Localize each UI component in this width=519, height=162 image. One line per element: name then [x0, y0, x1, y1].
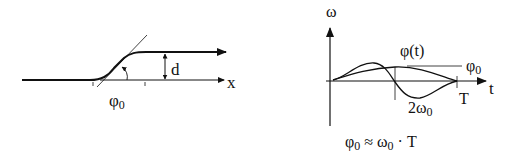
angle-symbol: φ	[109, 91, 119, 110]
formula-lhs: φ	[345, 133, 354, 151]
diagram-canvas: x d φ0 ω t T φ(t) φ0 2ω0 φ0 ≈ ω0 · T	[0, 0, 519, 162]
time-axis-label: t	[489, 79, 494, 98]
omega-axis-label: ω	[326, 3, 337, 20]
angle-label: φ0	[109, 91, 125, 112]
approximation-formula: φ0 ≈ ω0 · T	[345, 133, 417, 153]
phi0-label: φ0	[466, 57, 481, 77]
formula-op: ≈ ω	[360, 133, 387, 150]
trajectory-path	[22, 52, 226, 80]
end-time-label: T	[459, 90, 469, 107]
angle-arc	[122, 67, 127, 80]
angle-subscript: 0	[119, 98, 125, 112]
peak-omega-label: 2ω0	[408, 99, 433, 119]
phi0-subscript: 0	[475, 63, 481, 77]
peak-subscript: 0	[427, 105, 433, 119]
phi0-symbol: φ	[466, 57, 475, 75]
angular-velocity-plot: ω t T φ(t) φ0 2ω0 φ0 ≈ ω0 · T	[326, 3, 494, 153]
phi-curve-label: φ(t)	[400, 42, 424, 60]
lane-change-diagram: x d φ0	[22, 35, 236, 112]
offset-label: d	[171, 60, 180, 79]
x-axis-label: x	[227, 73, 236, 92]
tangent-line	[97, 35, 147, 87]
formula-rhs: · T	[394, 133, 417, 150]
peak-symbol: 2ω	[408, 99, 427, 116]
